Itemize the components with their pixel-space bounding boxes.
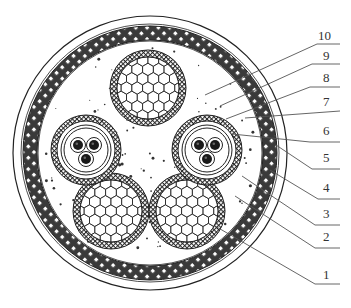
callout-label-5: 5 — [323, 150, 330, 165]
control-unit — [172, 115, 242, 185]
callout-label-8: 8 — [323, 70, 330, 85]
callout-label-4: 4 — [323, 180, 330, 195]
control-core-conductor — [194, 140, 204, 150]
control-core-conductor — [202, 154, 212, 164]
power-conductor — [110, 50, 186, 126]
callout-label-9: 9 — [323, 48, 330, 63]
control-core-conductor — [73, 140, 83, 150]
control-unit — [51, 115, 121, 185]
control-core-conductor — [210, 140, 220, 150]
callout-label-10: 10 — [318, 28, 331, 43]
callout-label-6: 6 — [323, 123, 330, 138]
callout-label-1: 1 — [323, 267, 330, 282]
cable-cross-section-diagram: 10987654321 — [0, 0, 351, 308]
cable-body — [13, 16, 287, 290]
control-core-conductor — [89, 140, 99, 150]
callout-label-2: 2 — [323, 229, 330, 244]
control-core-conductor — [81, 154, 91, 164]
callout-label-3: 3 — [323, 206, 330, 221]
callout-label-7: 7 — [323, 94, 330, 109]
